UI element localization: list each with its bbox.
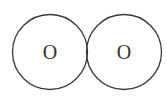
atom-label-left: O [43,41,57,63]
atom-right: O [87,15,162,90]
oxygen-molecule-diagram: O O [0,0,167,100]
atom-left: O [13,15,88,90]
atom-label-right: O [117,41,131,63]
